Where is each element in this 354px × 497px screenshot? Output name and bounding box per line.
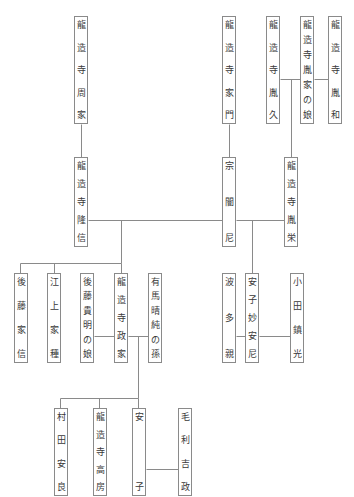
person-box-egami-ietane: 江上家種	[47, 273, 61, 363]
name-char: 造	[269, 43, 278, 53]
name-char: 寺	[77, 65, 86, 75]
name-char: 孫	[151, 349, 160, 359]
name-char: 房	[96, 482, 105, 492]
person-box-shuuka: 龍造寺周家	[74, 16, 88, 124]
name-char: 純	[151, 320, 160, 330]
person-box-hata-chika: 波多親	[222, 273, 236, 363]
person-box-takanobu: 龍造寺隆信	[74, 157, 88, 247]
name-char: 家	[17, 325, 26, 335]
name-char: 龍	[225, 20, 234, 30]
name-char: の	[83, 335, 92, 345]
name-char: の	[151, 335, 160, 345]
name-char: 胤	[287, 215, 296, 225]
person-box-takafusa: 龍造寺高房	[93, 408, 107, 496]
name-char: 闇	[225, 197, 234, 207]
person-box-sogenni: 宗闇尼	[222, 157, 236, 247]
name-char: 政	[117, 331, 126, 341]
name-char: 後	[17, 277, 26, 287]
name-char: 尼	[225, 233, 234, 243]
name-char: 安	[248, 277, 257, 287]
name-char: 寺	[225, 65, 234, 75]
name-char: の	[303, 95, 312, 105]
name-char: 貴	[83, 306, 92, 316]
name-char: 藤	[17, 301, 26, 311]
name-char: 龍	[287, 161, 296, 171]
name-char: 久	[269, 110, 278, 120]
person-box-yasuko: 安子	[132, 408, 146, 496]
name-char: 造	[77, 179, 86, 189]
name-char: 吉	[181, 459, 190, 469]
name-char: 造	[96, 430, 105, 440]
name-char: 龍	[303, 20, 312, 30]
name-char: 田	[57, 435, 66, 445]
name-char: 晴	[151, 306, 160, 316]
name-char: 利	[181, 435, 190, 445]
name-char: 馬	[151, 291, 160, 301]
name-char: 寺	[269, 65, 278, 75]
name-char: 高	[96, 465, 105, 475]
name-char: 安	[135, 412, 144, 422]
person-box-taneie-musume: 龍造寺胤家の娘	[300, 16, 314, 124]
person-box-goto-musume: 後藤貴明の娘	[80, 273, 94, 363]
name-char: 明	[83, 320, 92, 330]
name-char: 政	[181, 482, 190, 492]
name-char: 上	[50, 301, 59, 311]
name-char: 娘	[83, 349, 92, 359]
name-char: 村	[57, 412, 66, 422]
name-char: 信	[77, 233, 86, 243]
name-char: 龍	[77, 161, 86, 171]
name-char: 多	[225, 313, 234, 323]
name-char: 龍	[77, 20, 86, 30]
name-char: 妙	[248, 313, 257, 323]
name-char: 家	[225, 88, 234, 98]
name-char: 宗	[225, 161, 234, 171]
name-char: 造	[331, 43, 340, 53]
name-char: 光	[293, 349, 302, 359]
name-char: 田	[293, 301, 302, 311]
name-char: 造	[225, 43, 234, 53]
person-box-oda-shigemitsu: 小田鎮光	[290, 273, 304, 363]
name-char: 有	[151, 277, 160, 287]
name-char: 寺	[303, 50, 312, 60]
name-char: 寺	[117, 313, 126, 323]
name-char: 家	[50, 325, 59, 335]
name-char: 造	[117, 295, 126, 305]
name-char: 胤	[303, 65, 312, 75]
name-char: 安	[248, 331, 257, 341]
name-char: 親	[225, 349, 234, 359]
person-box-goto-ienobu: 後藤家信	[14, 273, 28, 363]
name-char: 門	[225, 110, 234, 120]
name-char: 安	[57, 459, 66, 469]
name-char: 藤	[83, 291, 92, 301]
name-char: 後	[83, 277, 92, 287]
name-char: 和	[331, 110, 340, 120]
name-char: 周	[77, 88, 86, 98]
person-box-tanekazu: 龍造寺胤和	[328, 16, 342, 124]
name-char: 龍	[331, 20, 340, 30]
name-char: 造	[77, 43, 86, 53]
name-char: 龍	[269, 20, 278, 30]
person-box-iekado: 龍造寺家門	[222, 16, 236, 124]
name-char: 尼	[248, 349, 257, 359]
name-char: 良	[57, 482, 66, 492]
name-char: 娘	[303, 110, 312, 120]
person-box-masaie: 龍造寺政家	[114, 273, 128, 363]
person-box-arima-mago: 有馬晴純の孫	[148, 273, 162, 363]
name-char: 小	[293, 277, 302, 287]
person-box-taneyoshi: 龍造寺胤栄	[284, 157, 298, 247]
name-char: 隆	[77, 215, 86, 225]
name-char: 毛	[181, 412, 190, 422]
name-char: 家	[117, 349, 126, 359]
name-char: 龍	[96, 412, 105, 422]
name-char: 子	[135, 482, 144, 492]
name-char: 波	[225, 277, 234, 287]
name-char: 江	[50, 277, 59, 287]
name-char: 寺	[77, 197, 86, 207]
name-char: 造	[303, 35, 312, 45]
name-char: 栄	[287, 233, 296, 243]
name-char: 胤	[269, 88, 278, 98]
name-char: 寺	[96, 447, 105, 457]
person-box-murata-yasuyoshi: 村田安良	[54, 408, 68, 496]
name-char: 寺	[287, 197, 296, 207]
name-char: 龍	[117, 277, 126, 287]
